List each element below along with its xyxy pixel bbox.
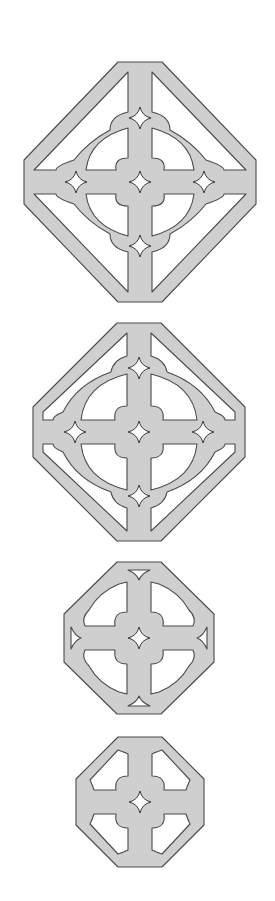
- tile-1: [24, 62, 256, 302]
- tile-4: [76, 737, 204, 867]
- tile-3: [64, 562, 214, 714]
- tile-2: [33, 323, 245, 541]
- ornament-figure: [0, 0, 275, 901]
